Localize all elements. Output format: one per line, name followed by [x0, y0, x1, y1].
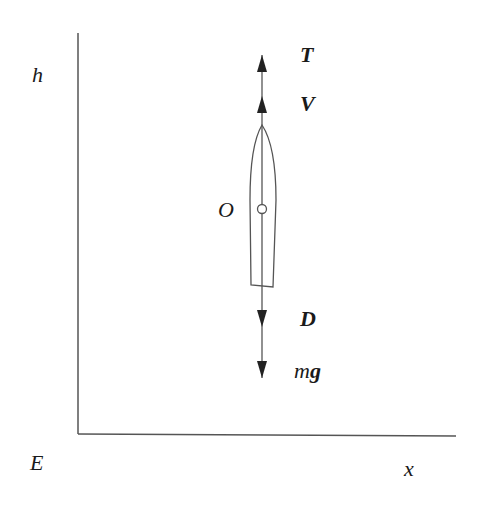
horizontal-axis [78, 434, 456, 436]
free-body-diagram: h E x O T V D mg [0, 0, 478, 509]
weight-arrow-icon [257, 361, 267, 378]
weight-label-gravity: g [309, 358, 321, 383]
thrust-label: T [300, 42, 315, 67]
weight-label: mg [294, 358, 321, 383]
vertical-axis-label: h [32, 62, 43, 87]
drag-label: D [299, 306, 316, 331]
weight-label-mass: m [294, 358, 310, 383]
center-label: O [218, 197, 234, 222]
velocity-arrow-icon [257, 96, 267, 113]
drag-arrow-icon [257, 310, 267, 327]
velocity-label: V [300, 91, 317, 116]
horizontal-axis-label: x [403, 456, 414, 481]
axes [78, 33, 456, 436]
center-of-mass-marker [258, 205, 267, 214]
thrust-arrow-icon [257, 55, 267, 72]
origin-label: E [29, 450, 44, 475]
diagram-svg: h E x O T V D mg [0, 0, 478, 509]
